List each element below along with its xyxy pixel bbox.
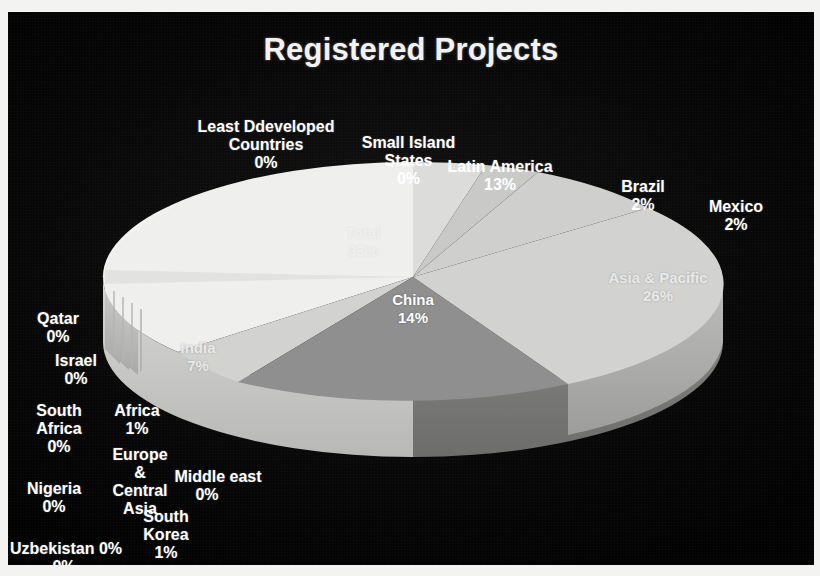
slide-frame: Registered Projects bbox=[0, 0, 820, 576]
slice-label-total-percent: 33% bbox=[348, 242, 378, 259]
slice-label-total: Total 33% bbox=[308, 207, 418, 259]
callout-nigeria-percent: 0% bbox=[14, 498, 94, 516]
callout-latin-america-percent: 13% bbox=[440, 176, 560, 194]
slice-label-india-name: India bbox=[180, 339, 215, 356]
callout-south-korea-percent: 1% bbox=[130, 544, 202, 562]
callout-south-africa-percent: 0% bbox=[20, 438, 98, 456]
callout-latin-america-name: Latin America bbox=[447, 158, 552, 175]
callout-south-africa: South Africa 0% bbox=[20, 384, 98, 474]
slice-label-china: China 14% bbox=[363, 274, 463, 326]
callout-brazil-name: Brazil bbox=[621, 178, 665, 195]
slice-label-asia-pacific: Asia & Pacific 26% bbox=[588, 252, 728, 304]
callout-uzbekistan-name: Uzbekistan 0% bbox=[10, 540, 122, 557]
callout-africa-name: Africa bbox=[114, 402, 159, 419]
chart-title: Registered Projects bbox=[8, 32, 814, 68]
callout-least-developed-countries-percent: 0% bbox=[176, 154, 356, 172]
callout-brazil: Brazil 2% bbox=[608, 160, 678, 232]
callout-south-korea-name: South Korea bbox=[143, 508, 188, 543]
slice-label-china-percent: 14% bbox=[398, 309, 428, 326]
callout-mexico-percent: 2% bbox=[696, 216, 776, 234]
callout-latin-america: Latin America 13% bbox=[440, 140, 560, 212]
callout-brazil-percent: 2% bbox=[608, 196, 678, 214]
callout-mexico-name: Mexico bbox=[709, 198, 763, 215]
slice-label-total-name: Total bbox=[346, 224, 381, 241]
callout-south-korea: South Korea 1% bbox=[130, 490, 202, 565]
callout-uzbekistan-percent: 0% bbox=[10, 558, 118, 565]
callout-middle-east-name: Middle east bbox=[174, 468, 261, 485]
slice-label-asia-pacific-percent: 26% bbox=[643, 287, 673, 304]
callout-south-africa-name: South Africa bbox=[36, 402, 81, 437]
slice-label-china-name: China bbox=[392, 291, 434, 308]
callout-qatar-name: Qatar bbox=[37, 310, 79, 327]
callout-nigeria-name: Nigeria bbox=[27, 480, 81, 497]
callout-least-developed-countries-name: Least Ddeveloped Countries bbox=[198, 118, 335, 153]
slice-label-asia-pacific-name: Asia & Pacific bbox=[608, 269, 707, 286]
pie-chart-canvas: Registered Projects bbox=[8, 12, 814, 565]
slice-label-india: India 7% bbox=[153, 322, 243, 374]
callout-mexico: Mexico 2% bbox=[696, 180, 776, 252]
callout-least-developed-countries: Least Ddeveloped Countries 0% bbox=[176, 100, 356, 190]
callout-israel-name: Israel bbox=[55, 352, 97, 369]
slice-label-india-percent: 7% bbox=[187, 357, 209, 374]
